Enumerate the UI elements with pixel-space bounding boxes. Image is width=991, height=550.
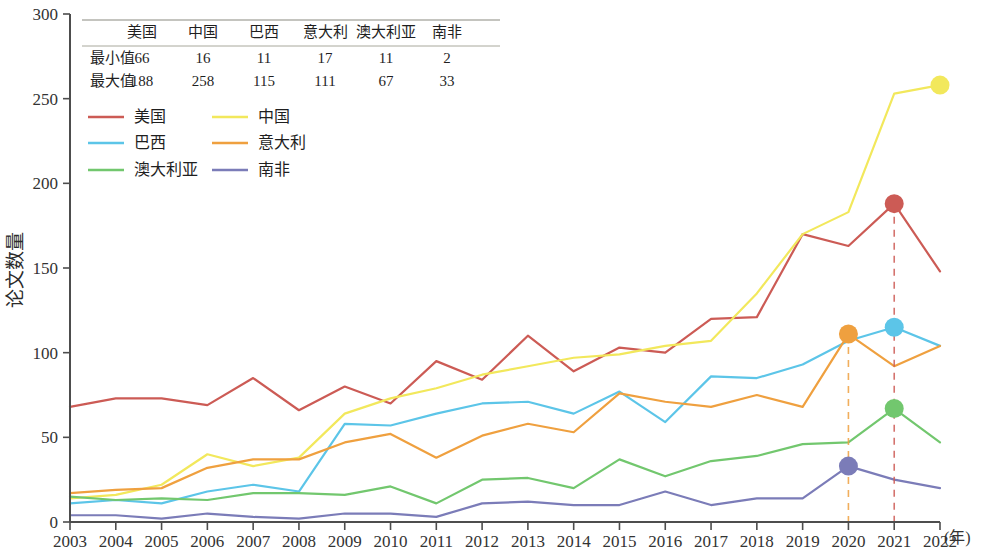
x-tick-label: 2019: [786, 532, 820, 550]
x-axis-ticks: 2003200420052006200720082009201020112012…: [53, 522, 957, 550]
legend-label-1: 中国: [258, 108, 290, 125]
legend: 美国中国巴西意大利澳大利亚南非: [88, 108, 306, 178]
x-tick-label: 2010: [374, 532, 408, 550]
y-axis-ticks: 050100150200250300: [33, 5, 71, 532]
x-tick-label: 2009: [328, 532, 362, 550]
x-tick-label: 2007: [236, 532, 271, 550]
table-column-header-3: 意大利: [303, 23, 348, 40]
marker-guides-layer: [848, 204, 894, 522]
table-cell-r1-c2: 115: [253, 73, 275, 89]
series-line-1: [70, 85, 940, 498]
table-column-header-0: 美国: [127, 24, 157, 40]
y-tick-label: 100: [33, 344, 59, 363]
x-tick-label: 2008: [282, 532, 316, 550]
x-tick-label: 2016: [648, 532, 682, 550]
x-tick-label: 2011: [420, 532, 453, 550]
peak-marker-5: [839, 457, 858, 476]
legend-label-4: 澳大利亚: [134, 161, 198, 178]
peak-marker-4: [885, 399, 904, 418]
x-tick-label: 2013: [511, 532, 545, 550]
table-column-header-2: 巴西: [249, 24, 279, 40]
x-tick-label: 2018: [740, 532, 774, 550]
peak-marker-3: [839, 325, 858, 344]
table-cell-r0-c1: 16: [196, 50, 212, 66]
y-axis-title: 论文数量: [5, 232, 26, 308]
table-cell-r0-c0: 66: [135, 50, 151, 66]
legend-label-2: 巴西: [134, 134, 166, 151]
x-tick-label: 2004: [99, 532, 134, 550]
legend-label-5: 南非: [258, 161, 290, 178]
peak-marker-0: [885, 194, 904, 213]
summary-table: 美国中国巴西意大利澳大利亚南非最小值66161117112最大值18825811…: [82, 20, 500, 89]
series-layer: [70, 85, 940, 518]
series-line-0: [70, 204, 940, 411]
y-tick-label: 250: [33, 90, 59, 109]
x-axis-unit-label: (年): [944, 529, 971, 547]
table-row-label-0: 最小值: [90, 50, 135, 66]
y-tick-label: 0: [50, 513, 59, 532]
table-cell-r0-c4: 11: [379, 50, 393, 66]
x-tick-label: 2012: [465, 532, 499, 550]
table-column-header-4: 澳大利亚: [356, 24, 416, 40]
x-tick-label: 2014: [557, 532, 592, 550]
table-cell-r0-c3: 17: [318, 50, 334, 66]
y-tick-label: 150: [33, 259, 59, 278]
table-cell-r1-c1: 258: [192, 73, 215, 89]
x-tick-label: 2005: [145, 532, 179, 550]
table-cell-r1-c3: 111: [314, 73, 335, 89]
x-tick-label: 2003: [53, 532, 87, 550]
table-column-header-5: 南非: [432, 24, 462, 40]
table-row-label-1: 最大值: [90, 73, 135, 89]
y-tick-label: 200: [33, 174, 59, 193]
legend-label-0: 美国: [134, 108, 166, 125]
x-tick-label: 2021: [877, 532, 911, 550]
y-tick-label: 300: [33, 5, 59, 24]
table-cell-r1-c4: 67: [379, 73, 395, 89]
x-tick-label: 2017: [694, 532, 729, 550]
legend-label-3: 意大利: [258, 133, 306, 151]
chart-canvas: 050100150200250300 200320042005200620072…: [0, 0, 991, 550]
table-cell-r1-c0: 188: [131, 73, 154, 89]
line-chart-figure: 050100150200250300 200320042005200620072…: [0, 0, 991, 550]
table-column-header-1: 中国: [188, 24, 218, 40]
x-tick-label: 2020: [831, 532, 865, 550]
table-cell-r1-c5: 33: [440, 73, 455, 89]
peak-marker-2: [885, 318, 904, 337]
x-tick-label: 2015: [602, 532, 636, 550]
peak-marker-1: [931, 76, 950, 95]
table-cell-r0-c2: 11: [257, 50, 271, 66]
series-line-2: [70, 327, 940, 503]
table-cell-r0-c5: 2: [443, 50, 451, 66]
y-tick-label: 50: [41, 428, 58, 447]
x-tick-label: 2006: [190, 532, 224, 550]
series-line-4: [70, 409, 940, 504]
